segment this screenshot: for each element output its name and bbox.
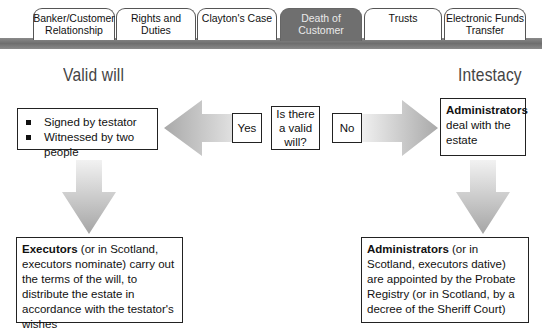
tab-claytons-case[interactable]: Clayton's Case [197, 8, 277, 40]
requirement-item: Signed by testator [22, 115, 153, 130]
tab-rights-and-duties[interactable]: Rights and Duties [116, 8, 196, 40]
administrators-outcome-bold: Administrators [367, 243, 449, 255]
executors-outcome-box: Executors (or in Scotland, executors nom… [16, 237, 183, 323]
tab-death-of-customer[interactable]: Death of Customer [280, 8, 362, 41]
no-box: No [332, 113, 362, 143]
arrow-right-icon [362, 100, 438, 156]
administrators-bold: Administrators [446, 104, 528, 116]
question-box: Is there a valid will? [271, 106, 320, 150]
administrators-summary-box: Administrators deal with the estate [440, 98, 526, 156]
tab-trusts[interactable]: Trusts [364, 8, 442, 40]
administrators-outcome-box: Administrators (or in Scotland, executor… [361, 237, 529, 323]
intestacy-heading: Intestacy [458, 64, 522, 86]
administrators-summary-text: deal with the estate [446, 119, 511, 146]
arrow-down-left-icon [62, 160, 116, 234]
executors-bold: Executors [22, 243, 78, 255]
will-requirements-box: Signed by testator Witnessed by two peop… [17, 108, 158, 150]
no-label: No [340, 121, 355, 136]
valid-will-heading: Valid will [63, 64, 124, 86]
yes-box: Yes [232, 113, 262, 143]
tab-banker-customer-relationship[interactable]: Banker/Customer Relationship [33, 8, 115, 40]
tab-bar: Banker/Customer Relationship Rights and … [0, 0, 542, 48]
requirement-item: Witnessed by two people [22, 130, 153, 160]
tab-electronic-funds-transfer[interactable]: Electronic Funds Transfer [444, 8, 526, 40]
question-text: Is there a valid will? [272, 107, 319, 149]
executors-outcome-text: (or in Scotland, executors nominate) car… [22, 243, 174, 330]
yes-label: Yes [238, 121, 257, 136]
arrow-down-right-icon [456, 160, 510, 234]
